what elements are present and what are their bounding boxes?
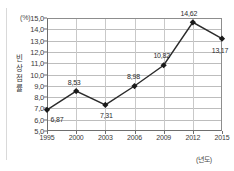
y-axis-unit-label: (%) [20, 14, 30, 21]
y-axis-title-char: 점 [14, 74, 25, 84]
y-tick-label: 6,0 [34, 115, 44, 124]
x-axis-unit-label: (년도) [196, 154, 212, 164]
data-point-label: 8,98 [127, 73, 140, 80]
x-tick-mark [164, 131, 165, 134]
y-axis-title-char: 빈 [14, 54, 25, 64]
x-tick-label: 2012 [185, 134, 200, 141]
x-tick-mark [135, 131, 136, 134]
x-tick-label: 2000 [69, 134, 84, 141]
chart-figure: (%) (년도) 빈 상 점 률 5,06,07,08,09,010,011,0… [0, 0, 234, 171]
x-tick-label: 2009 [156, 134, 171, 141]
data-point-label: 8,53 [68, 79, 81, 86]
y-tick-label: 13,0 [30, 36, 44, 45]
data-point-label: 6,87 [51, 115, 64, 122]
series-polyline [47, 22, 222, 110]
y-tick-label: 14,0 [30, 25, 44, 34]
data-point-label: 14,62 [181, 10, 198, 17]
data-point-label: 10,82 [153, 52, 170, 59]
x-tick-mark [105, 131, 106, 134]
y-axis-title-char: 상 [14, 64, 25, 74]
y-tick-label: 8,0 [34, 93, 44, 102]
x-tick-label: 1995 [40, 134, 55, 141]
data-point-label: 13,17 [212, 46, 229, 53]
page-edge-line [6, 8, 7, 160]
y-tick-label: 10,0 [30, 70, 44, 79]
y-axis-title-char: 률 [14, 84, 25, 94]
x-tick-label: 2006 [127, 134, 142, 141]
data-point-marker [219, 36, 225, 42]
x-tick-mark [76, 131, 77, 134]
x-tick-label: 2003 [98, 134, 113, 141]
x-tick-mark [193, 131, 194, 134]
y-tick-label: 7,0 [34, 104, 44, 113]
y-tick-label: 11,0 [31, 59, 44, 68]
y-tick-label: 12,0 [30, 47, 44, 56]
x-tick-mark [47, 131, 48, 134]
x-tick-label: 2015 [215, 134, 230, 141]
data-point-label: 7,31 [100, 111, 113, 118]
y-tick-label: 9,0 [34, 81, 44, 90]
y-axis-title: 빈 상 점 률 [14, 54, 25, 94]
y-tick-label: 15,0 [30, 14, 44, 23]
plot-area: 5,06,07,08,09,010,011,012,013,014,015,0 … [47, 18, 222, 131]
x-tick-mark [222, 131, 223, 134]
